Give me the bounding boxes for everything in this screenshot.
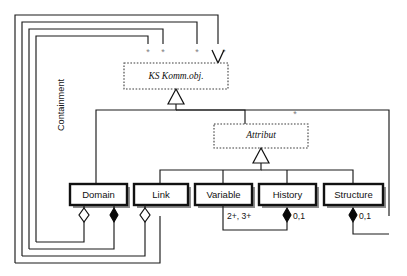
class-label-history: History [273, 189, 303, 200]
generalization-triangle-to-ks-komm-obj [168, 89, 184, 104]
class-label-attribut: Attribut [245, 130, 276, 140]
edge-generalization-spine-ks-right [176, 110, 245, 124]
multiplicity-asterisk-3: * [195, 47, 199, 57]
edge-domain-aggregation-inner-bottom [36, 216, 84, 242]
edge-link-aggregation-outer [15, 15, 218, 263]
multiplicity-asterisk-attribut: * [293, 109, 297, 119]
edge-generalization-spine-ks [96, 104, 176, 184]
multiplicity-variable-card: 2+, 3+ [227, 211, 251, 221]
multiplicity-asterisk-2: * [161, 47, 165, 57]
multiplicity-history-card: 0,1 [293, 211, 305, 221]
class-label-domain: Domain [82, 189, 115, 200]
class-label-link: Link [152, 189, 170, 200]
diagram-svg: Containment * * * * KS Komm.obj. * Attri… [0, 0, 407, 276]
filled-diamond-history-icon [283, 208, 291, 222]
generalization-triangle-to-attribut [253, 148, 269, 163]
edge-generalization-spine-attribut-right [261, 170, 353, 184]
uml-diagram-canvas: Containment * * * * KS Komm.obj. * Attri… [0, 0, 407, 276]
hollow-diamond-link-icon [140, 208, 150, 222]
hollow-diamond-domain-icon [79, 208, 89, 222]
filled-diamond-structure-icon [349, 208, 357, 222]
edge-domain-composition-ring [22, 22, 197, 256]
class-label-variable: Variable [206, 189, 240, 200]
class-label-ks-komm-obj: KS Komm.obj. [147, 71, 203, 81]
edge-structure-composition-route [353, 222, 389, 234]
containment-label: Containment [56, 79, 66, 132]
containment-routing-group [15, 15, 218, 263]
edge-generalization-spine-attribut [160, 163, 261, 184]
filled-diamond-domain-icon [110, 208, 118, 222]
concrete-classes-group: Domain Link Variable History Structure [70, 184, 386, 208]
multiplicity-asterisk-1: * [146, 47, 150, 57]
class-label-structure: Structure [334, 189, 373, 200]
edge-domain-ring-three-bottom [29, 216, 114, 249]
multiplicity-structure-card: 0,1 [359, 211, 371, 221]
